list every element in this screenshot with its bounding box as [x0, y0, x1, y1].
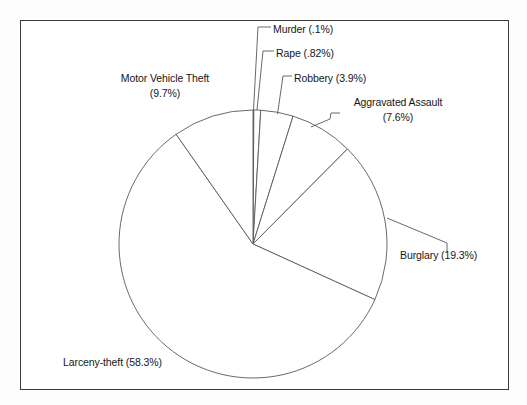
slice-label-robbery: Robbery (3.9%)	[294, 71, 366, 85]
slice-label-aggravated-assault-value: (7.6%)	[333, 110, 463, 125]
slice-label-rape: Rape (.82%)	[276, 46, 334, 60]
pie-chart-graphic	[0, 0, 527, 405]
slice-label-aggravated-assault: Aggravated Assault (7.6%)	[333, 95, 463, 125]
slice-label-larceny-theft: Larceny-theft (58.3%)	[63, 355, 162, 369]
slice-label-motor-vehicle-theft-name: Motor Vehicle Theft	[97, 71, 233, 86]
leader-line-rape	[257, 51, 274, 110]
leader-line-murder	[254, 27, 272, 110]
leader-line-robbery	[278, 76, 293, 114]
pie-slices-group	[119, 110, 387, 378]
chart-figure: Murder (.1%) Rape (.82%) Robbery (3.9%) …	[0, 0, 527, 405]
slice-label-murder: Murder (.1%)	[273, 22, 333, 36]
slice-label-motor-vehicle-theft: Motor Vehicle Theft (9.7%)	[97, 71, 233, 101]
slice-label-aggravated-assault-name: Aggravated Assault	[333, 95, 463, 110]
leader-line-burglary	[387, 218, 447, 252]
slice-label-motor-vehicle-theft-value: (9.7%)	[97, 86, 233, 101]
slice-label-burglary: Burglary (19.3%)	[400, 248, 477, 262]
